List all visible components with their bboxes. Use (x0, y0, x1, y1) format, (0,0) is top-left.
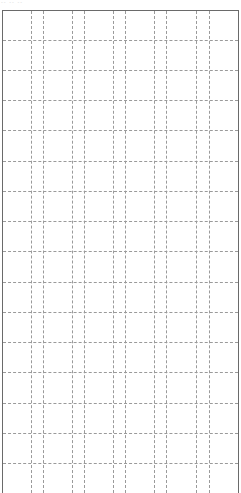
grid-horizontal-line (3, 161, 238, 162)
grid-horizontal-line (3, 70, 238, 71)
grid-vertical-line (196, 11, 197, 493)
grid-vertical-line (43, 11, 44, 493)
grid-vertical-line (166, 11, 167, 493)
grid-vertical-line (154, 11, 155, 493)
grid-horizontal-line (3, 403, 238, 404)
grid-horizontal-line (3, 433, 238, 434)
grid-horizontal-line (3, 221, 238, 222)
grid-horizontal-line (3, 100, 238, 101)
grid-horizontal-line (3, 312, 238, 313)
grid-horizontal-line (3, 130, 238, 131)
grid-horizontal-line (3, 463, 238, 464)
grid-horizontal-line (3, 191, 238, 192)
grid-horizontal-line (3, 372, 238, 373)
blank-grid-form (2, 10, 239, 493)
grid-vertical-line (113, 11, 114, 493)
grid-vertical-line (72, 11, 73, 493)
grid-vertical-line (31, 11, 32, 493)
grid-horizontal-line (3, 251, 238, 252)
grid-horizontal-line (3, 40, 238, 41)
grid-vertical-line (209, 11, 210, 493)
grid-vertical-line (84, 11, 85, 493)
page-header-text: ‐‐ ‐‐ ‐‐ (1, 0, 23, 5)
grid-vertical-line (125, 11, 126, 493)
grid-horizontal-line (3, 342, 238, 343)
grid-horizontal-line (3, 282, 238, 283)
